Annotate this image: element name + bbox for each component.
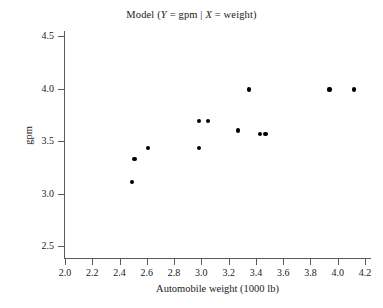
- x-axis-tick: [229, 259, 230, 265]
- x-axis-tick-label: 2.2: [77, 267, 107, 278]
- x-axis-tick: [365, 259, 366, 265]
- chart-title-prefix: Model (: [126, 9, 161, 20]
- y-axis-tick-label: 4.0: [26, 84, 54, 94]
- y-axis-tick-label: 4.5: [26, 31, 54, 41]
- x-axis-title: Automobile weight (1000 lb): [64, 283, 371, 294]
- y-axis-title: gpm: [23, 116, 34, 156]
- data-point: [132, 157, 136, 161]
- x-axis-line: [64, 258, 371, 259]
- data-point: [263, 132, 267, 136]
- x-axis-tick: [65, 259, 66, 265]
- data-point: [327, 87, 331, 91]
- x-axis-tick: [120, 259, 121, 265]
- x-axis-tick-label: 2.4: [105, 267, 135, 278]
- data-point: [197, 119, 201, 123]
- x-axis-tick-label: 2.8: [159, 267, 189, 278]
- y-axis-tick-label: 2.5: [26, 241, 54, 251]
- x-axis-tick-label: 4.2: [350, 267, 380, 278]
- x-axis-tick-label: 3.2: [214, 267, 244, 278]
- data-point: [146, 146, 150, 150]
- x-axis-tick: [310, 259, 311, 265]
- scatter-plot-figure: Model (Y = gpm | X = weight) 2.53.03.54.…: [0, 0, 383, 308]
- y-axis-tick-label: 3.0: [26, 189, 54, 199]
- data-point: [197, 146, 201, 150]
- data-point: [236, 128, 240, 132]
- x-axis-tick-label: 3.8: [295, 267, 325, 278]
- x-axis-tick-label: 3.4: [241, 267, 271, 278]
- x-axis-tick: [92, 259, 93, 265]
- x-axis-tick: [174, 259, 175, 265]
- chart-title: Model (Y = gpm | X = weight): [0, 9, 383, 20]
- x-axis-tick: [338, 259, 339, 265]
- chart-title-suffix: = weight): [212, 9, 257, 20]
- x-axis-tick-label: 3.0: [186, 267, 216, 278]
- x-axis-tick: [256, 259, 257, 265]
- data-point: [206, 119, 210, 123]
- x-axis-tick: [201, 259, 202, 265]
- x-axis-tick-label: 2.0: [50, 267, 80, 278]
- x-axis-tick-label: 2.6: [132, 267, 162, 278]
- chart-title-x-variable: X: [205, 9, 212, 20]
- data-point: [247, 87, 251, 91]
- x-axis-tick-label: 4.0: [323, 267, 353, 278]
- x-axis-tick: [283, 259, 284, 265]
- data-point: [352, 87, 356, 91]
- chart-title-separator: = gpm |: [167, 9, 206, 20]
- data-point: [130, 180, 134, 184]
- x-axis-tick-label: 3.6: [268, 267, 298, 278]
- x-axis-tick: [147, 259, 148, 265]
- plot-area: [64, 31, 370, 258]
- data-point: [258, 132, 262, 136]
